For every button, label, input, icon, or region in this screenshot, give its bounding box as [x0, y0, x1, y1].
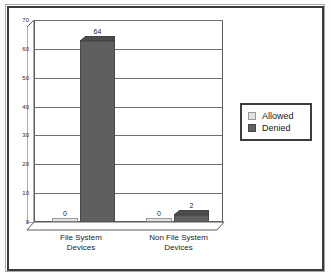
y-tick-label: 30	[22, 132, 29, 138]
bar-value-label: 64	[94, 28, 102, 35]
gridline-40	[34, 107, 223, 108]
gridline-50	[34, 78, 223, 79]
gridline-70	[34, 20, 223, 21]
bar-top-face	[80, 36, 115, 41]
gridline-60	[34, 49, 223, 50]
legend-label-denied: Denied	[262, 124, 291, 133]
chart-figure: 70 60 50 40 30 20 10 0 0	[0, 0, 331, 280]
y-tick-label: 50	[22, 75, 29, 81]
x-axis-label-group2: Non File System Devices	[126, 233, 231, 253]
gridline-10	[34, 193, 223, 194]
plot-area: 70 60 50 40 30 20 10 0 0	[34, 20, 223, 222]
legend-label-allowed: Allowed	[262, 112, 294, 121]
y-tick-label: 70	[22, 17, 29, 23]
y-tick-label: 60	[22, 46, 29, 52]
bar-face	[80, 40, 115, 222]
plot-back-wall	[34, 20, 223, 222]
gridline-20	[34, 164, 223, 165]
legend-item-allowed[interactable]: Allowed	[248, 110, 304, 122]
gridline-30	[34, 135, 223, 136]
axis-floor	[27, 215, 224, 230]
legend-swatch-allowed	[248, 112, 256, 120]
y-tick-label: 40	[22, 104, 29, 110]
legend-item-denied[interactable]: Denied	[248, 122, 304, 134]
x-axis-label-group1: File System Devices	[36, 233, 126, 253]
y-tick-label: 20	[22, 161, 29, 167]
chart-legend: Allowed Denied	[240, 103, 312, 141]
bar-denied-group1[interactable]: 64	[80, 36, 115, 222]
bar-value-label: 2	[190, 202, 194, 209]
y-tick-label: 10	[22, 190, 29, 196]
legend-swatch-denied	[248, 124, 256, 132]
